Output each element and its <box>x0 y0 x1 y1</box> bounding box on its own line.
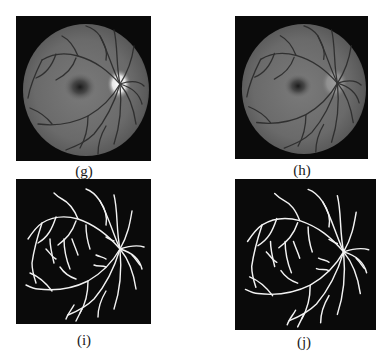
vessel-map-j <box>235 179 376 330</box>
fundus-image-h <box>235 16 368 159</box>
vessel-map-i <box>16 179 151 324</box>
panel-g-fundus-image <box>16 16 151 161</box>
caption-i: (i) <box>64 332 104 348</box>
panel-i-vessel-segmentation <box>16 179 151 324</box>
panel-j-vessel-segmentation <box>235 179 376 330</box>
panel-h-fundus-image <box>235 16 368 159</box>
caption-h: (h) <box>282 162 322 178</box>
caption-j: (j) <box>284 334 324 350</box>
caption-g: (g) <box>64 163 104 179</box>
fundus-image-g <box>16 16 151 161</box>
